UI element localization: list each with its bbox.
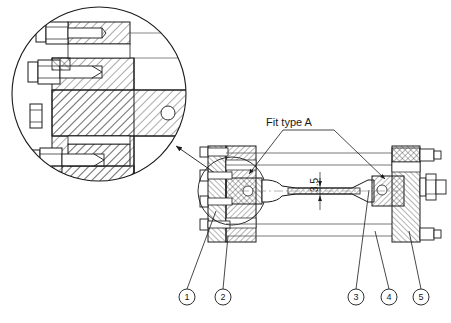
balloon-leader-3 (356, 190, 369, 289)
detail-top-grip-plate (68, 22, 190, 58)
dimension-value-3-5: 3.5 (309, 178, 320, 192)
right-flange-bolts (420, 149, 446, 240)
balloon-number-3: 3 (353, 292, 358, 302)
balloon-leader-4 (375, 231, 389, 289)
balloon-number-2: 2 (220, 292, 225, 302)
balloon-callout-1[interactable]: 1 (179, 211, 216, 305)
dimension-3-5: 3.5 (309, 172, 320, 210)
fit-type-note-group: Fit type A (249, 116, 385, 179)
left-flange-assembly (198, 146, 266, 242)
balloon-number-4: 4 (386, 292, 391, 302)
fit-note-leader-right (334, 130, 385, 179)
detail-view-group (12, 7, 222, 196)
detail-central-web (52, 90, 197, 136)
drawing-canvas: 3.5 Fit type A 1 2 3 (0, 0, 451, 323)
detail-bolt-third (30, 104, 42, 128)
balloon-leader-2 (223, 236, 228, 289)
balloon-number-1: 1 (184, 292, 189, 302)
fit-type-label: Fit type A (266, 116, 313, 128)
balloon-callout-2[interactable]: 2 (215, 236, 231, 305)
technical-drawing-sheet: 3.5 Fit type A 1 2 3 (0, 0, 451, 323)
right-flange-assembly (392, 146, 446, 242)
balloon-callout-3[interactable]: 3 (348, 190, 369, 305)
detail-view-contents (28, 22, 197, 196)
balloon-number-5: 5 (418, 292, 423, 302)
main-assembly-group (198, 146, 446, 242)
right-pin-hole (377, 185, 387, 195)
